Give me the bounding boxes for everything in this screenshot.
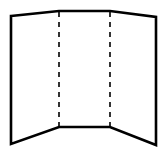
board-outline xyxy=(11,11,156,145)
trifold-board-diagram xyxy=(0,0,168,156)
